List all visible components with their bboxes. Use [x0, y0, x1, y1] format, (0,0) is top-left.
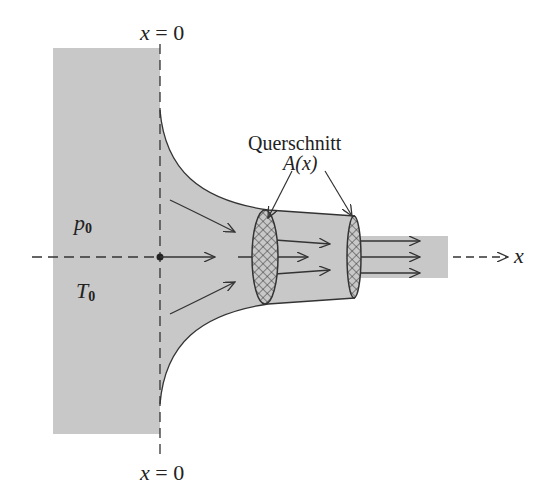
leader-arrow-2 [325, 171, 352, 216]
x-axis-label: x [513, 243, 524, 268]
cross-section-symbol: A(x) [281, 152, 318, 175]
reservoir [53, 48, 160, 434]
cross-section-2 [347, 216, 361, 298]
nozzle-diagram: x = 0 x = 0 Querschnitt A(x) p0 T0 x [0, 0, 555, 500]
cross-section-title: Querschnitt [248, 132, 342, 154]
bottom-x0-label: x = 0 [139, 460, 184, 485]
cross-section-1 [252, 210, 278, 304]
top-x0-label: x = 0 [139, 20, 184, 45]
